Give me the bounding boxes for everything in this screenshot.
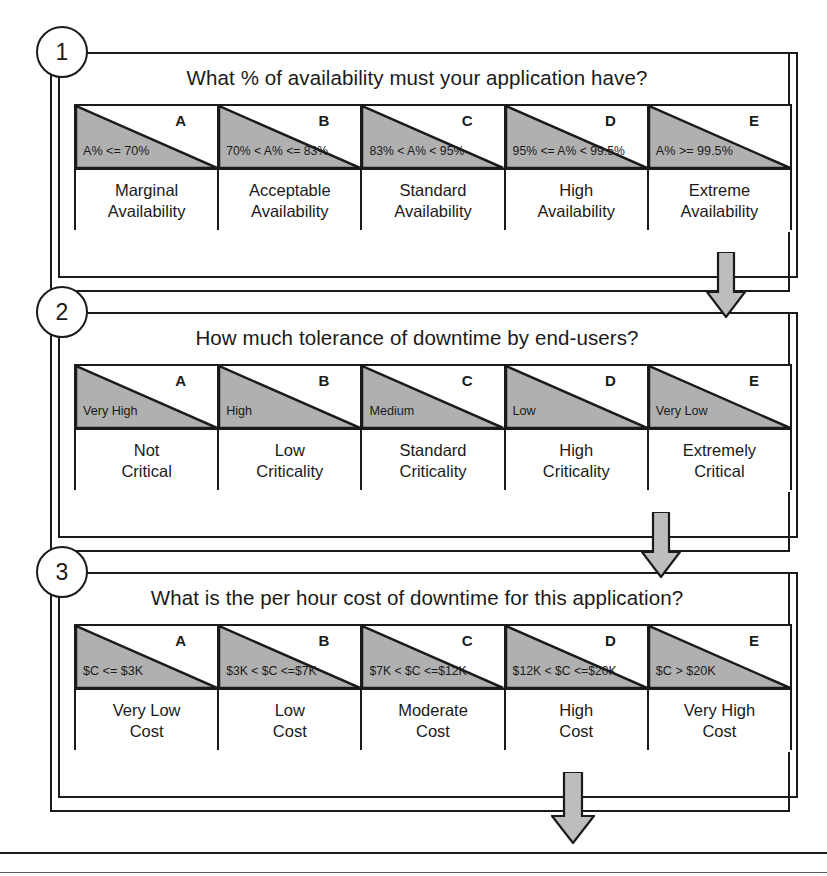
column-range: $7K < $C <=$12K xyxy=(369,664,466,678)
column-range: $C > $20K xyxy=(656,664,716,678)
shaded-triangle xyxy=(649,366,790,428)
column-range: $C <= $3K xyxy=(83,664,143,678)
triangle-cell-A: AVery High xyxy=(76,366,217,430)
label-line-1: High xyxy=(559,180,593,201)
column-range: A% <= 70% xyxy=(83,144,150,158)
classification-label-B: AcceptableAvailability xyxy=(219,170,360,232)
label-line-2: Cost xyxy=(702,721,736,742)
step-3-column-B[interactable]: B$3K < $C <=$7KLowCost xyxy=(219,626,362,748)
label-line-1: Moderate xyxy=(398,700,468,721)
step-2-column-B[interactable]: BHighLowCriticality xyxy=(219,366,362,488)
label-line-2: Critical xyxy=(694,461,744,482)
shaded-triangle xyxy=(219,626,360,688)
shaded-triangle xyxy=(649,106,790,168)
arrow-step2-to-step3 xyxy=(641,512,681,578)
column-letter: C xyxy=(462,372,473,389)
label-line-2: Availability xyxy=(681,201,759,222)
step-2-column-D[interactable]: DLowHighCriticality xyxy=(506,366,649,488)
column-range: 95% <= A% < 99.5% xyxy=(513,144,625,158)
label-line-1: Standard xyxy=(400,440,467,461)
label-line-2: Criticality xyxy=(543,461,610,482)
step-1-column-D[interactable]: D95% <= A% < 99.5%HighAvailability xyxy=(506,106,649,228)
step-3-question: What is the per hour cost of downtime fo… xyxy=(36,586,798,610)
step-2-badge: 2 xyxy=(36,286,88,338)
triangle-cell-A: A$C <= $3K xyxy=(76,626,217,690)
label-line-1: High xyxy=(559,440,593,461)
column-letter: C xyxy=(462,112,473,129)
classification-label-E: ExtremeAvailability xyxy=(649,170,790,232)
column-letter: B xyxy=(319,632,330,649)
column-letter: A xyxy=(175,112,186,129)
shaded-triangle xyxy=(219,106,360,168)
label-line-2: Availability xyxy=(394,201,472,222)
classification-label-C: ModerateCost xyxy=(362,690,503,752)
step-1-column-A[interactable]: AA% <= 70%MarginalAvailability xyxy=(76,106,219,228)
label-line-2: Availability xyxy=(251,201,329,222)
triangle-cell-C: C$7K < $C <=$12K xyxy=(362,626,503,690)
triangle-cell-D: D$12K < $C <=$20K xyxy=(506,626,647,690)
label-line-1: Extremely xyxy=(683,440,756,461)
triangle-cell-B: B70% < A% <= 83% xyxy=(219,106,360,170)
triangle-cell-E: E$C > $20K xyxy=(649,626,790,690)
triangle-cell-E: EVery Low xyxy=(649,366,790,430)
label-line-2: Availability xyxy=(108,201,186,222)
classification-label-D: HighCriticality xyxy=(506,430,647,492)
step-2-column-C[interactable]: CMediumStandardCriticality xyxy=(362,366,505,488)
classification-label-A: MarginalAvailability xyxy=(76,170,217,232)
label-line-1: Marginal xyxy=(115,180,178,201)
step-3-column-D[interactable]: D$12K < $C <=$20KHighCost xyxy=(506,626,649,748)
shaded-triangle xyxy=(506,366,647,428)
shaded-triangle xyxy=(362,626,503,688)
step-3-column-C[interactable]: C$7K < $C <=$12KModerateCost xyxy=(362,626,505,748)
label-line-1: Very High xyxy=(684,700,756,721)
label-line-2: Cost xyxy=(130,721,164,742)
column-range: Very Low xyxy=(656,404,708,418)
triangle-cell-A: AA% <= 70% xyxy=(76,106,217,170)
classification-label-C: StandardCriticality xyxy=(362,430,503,492)
triangle-cell-B: BHigh xyxy=(219,366,360,430)
step-3-number: 3 xyxy=(56,559,69,586)
classification-label-D: HighCost xyxy=(506,690,647,752)
label-line-1: Low xyxy=(275,700,305,721)
step-3-column-A[interactable]: A$C <= $3KVery LowCost xyxy=(76,626,219,748)
column-letter: A xyxy=(175,372,186,389)
classification-label-E: Very HighCost xyxy=(649,690,790,752)
label-line-1: Very Low xyxy=(113,700,181,721)
classification-label-C: StandardAvailability xyxy=(362,170,503,232)
shaded-triangle xyxy=(76,106,217,168)
column-letter: E xyxy=(749,372,759,389)
step-1-column-E[interactable]: EA% >= 99.5%ExtremeAvailability xyxy=(649,106,790,228)
step-3-badge: 3 xyxy=(36,546,88,598)
column-range: $3K < $C <=$7K xyxy=(226,664,316,678)
column-range: A% >= 99.5% xyxy=(656,144,733,158)
step-1-column-B[interactable]: B70% < A% <= 83%AcceptableAvailability xyxy=(219,106,362,228)
column-letter: D xyxy=(605,632,616,649)
step-2-column-E[interactable]: EVery LowExtremelyCritical xyxy=(649,366,790,488)
label-line-1: Low xyxy=(275,440,305,461)
step-3-column-E[interactable]: E$C > $20KVery HighCost xyxy=(649,626,790,748)
column-range: 70% < A% <= 83% xyxy=(226,144,328,158)
step-1-question: What % of availability must your applica… xyxy=(36,66,798,90)
column-letter: E xyxy=(749,112,759,129)
column-letter: E xyxy=(749,632,759,649)
step-2-column-A[interactable]: AVery HighNotCritical xyxy=(76,366,219,488)
label-line-1: Not xyxy=(134,440,160,461)
label-line-2: Criticality xyxy=(400,461,467,482)
column-range: High xyxy=(226,404,252,418)
classification-label-B: LowCriticality xyxy=(219,430,360,492)
label-line-2: Critical xyxy=(121,461,171,482)
step-2-number: 2 xyxy=(56,299,69,326)
column-letter: B xyxy=(319,372,330,389)
column-range: Low xyxy=(513,404,536,418)
label-line-2: Criticality xyxy=(256,461,323,482)
shaded-triangle xyxy=(219,366,360,428)
column-range: Medium xyxy=(369,404,414,418)
shaded-triangle xyxy=(506,626,647,688)
label-line-1: Acceptable xyxy=(249,180,331,201)
shaded-triangle xyxy=(362,366,503,428)
step-1-column-C[interactable]: C83% < A% < 95%StandardAvailability xyxy=(362,106,505,228)
classification-label-D: HighAvailability xyxy=(506,170,647,232)
diagram-canvas: 1 What % of availability must your appli… xyxy=(0,0,827,876)
triangle-cell-B: B$3K < $C <=$7K xyxy=(219,626,360,690)
column-range: $12K < $C <=$20K xyxy=(513,664,617,678)
